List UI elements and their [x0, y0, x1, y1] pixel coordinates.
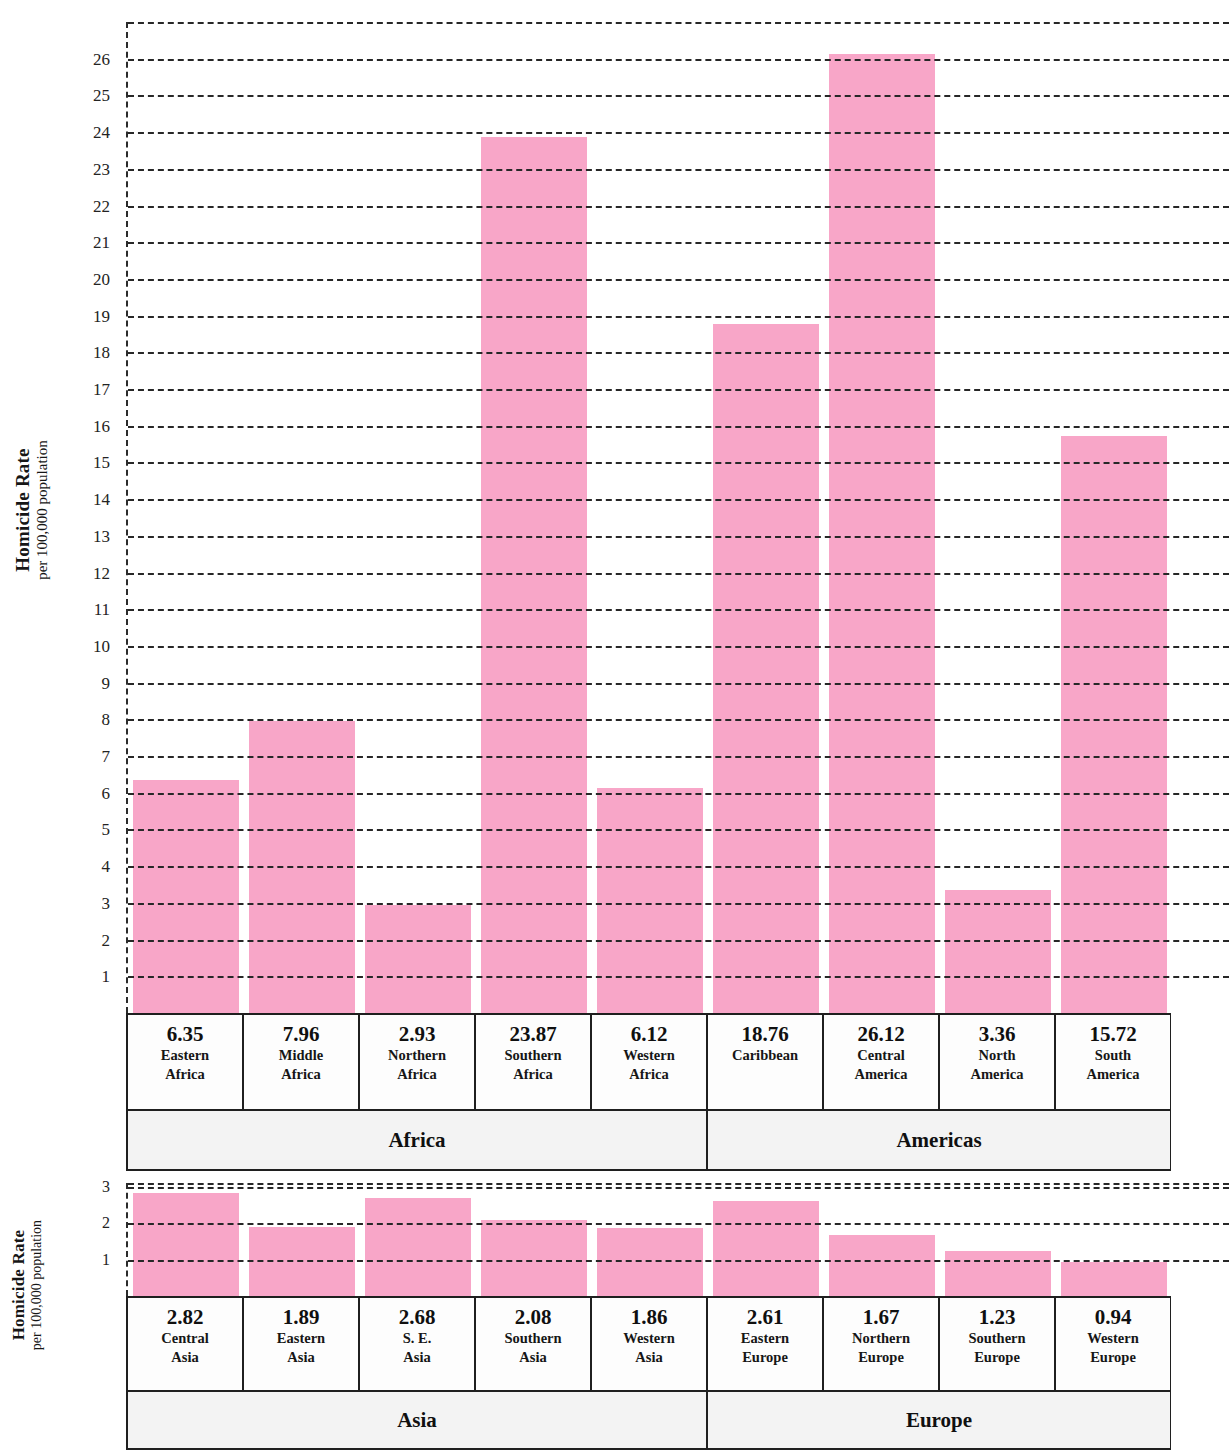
gridline — [128, 22, 1229, 24]
group-label-asia: Asia — [128, 1392, 708, 1450]
cell-value: 1.67 — [824, 1305, 938, 1329]
gridline — [128, 573, 1229, 575]
gridline — [128, 206, 1229, 208]
gridline — [128, 1187, 1229, 1189]
y-axis-tick-label: 19 — [93, 307, 110, 324]
cell-value: 2.08 — [476, 1305, 590, 1329]
bar — [597, 788, 703, 1013]
y-axis-tick-label: 1 — [102, 1252, 110, 1268]
y-axis-tick-label: 3 — [102, 894, 111, 911]
gridline — [128, 352, 1229, 354]
bar — [481, 137, 587, 1013]
gridline — [128, 866, 1229, 868]
cell-category-label: Central — [128, 1329, 242, 1348]
y-axis-tick-label: 15 — [93, 454, 110, 471]
table-cell-middle-africa: 7.96MiddleAfrica — [244, 1015, 360, 1111]
cell-category-label: North — [940, 1046, 1054, 1065]
cell-value: 6.35 — [128, 1022, 242, 1046]
plot-area-bottom — [126, 1183, 1169, 1296]
gridline — [128, 242, 1229, 244]
cell-category-label: Western — [1056, 1329, 1170, 1348]
plot-area-top — [126, 22, 1169, 1013]
bar — [713, 324, 819, 1013]
cell-value: 0.94 — [1056, 1305, 1170, 1329]
gridline — [128, 95, 1229, 97]
cell-category-label: Eastern — [128, 1046, 242, 1065]
bar — [945, 1251, 1051, 1296]
bar — [481, 1220, 587, 1296]
cell-value: 2.93 — [360, 1022, 474, 1046]
cell-value: 6.12 — [592, 1022, 706, 1046]
y-axis-tick-label: 25 — [93, 87, 110, 104]
table-cell-eastern-africa: 6.35EasternAfrica — [128, 1015, 244, 1111]
cell-category-label: Eastern — [708, 1329, 822, 1348]
gridline — [128, 536, 1229, 538]
cell-category-label: Africa — [592, 1065, 706, 1084]
table-cell-southern-africa: 23.87SouthernAfrica — [476, 1015, 592, 1111]
bar — [1061, 436, 1167, 1013]
cell-category-label: Western — [592, 1329, 706, 1348]
table-cell-western-asia: 1.86WesternAsia — [592, 1298, 708, 1392]
y-axis-tick-label: 2 — [102, 931, 111, 948]
data-label-row-top: 6.35EasternAfrica7.96MiddleAfrica2.93Nor… — [128, 1015, 1171, 1111]
data-label-row-bottom: 2.82CentralAsia1.89EasternAsia2.68S. E.A… — [128, 1298, 1171, 1392]
gridline — [128, 316, 1229, 318]
cell-category-label: Southern — [476, 1046, 590, 1065]
cell-category-label: Europe — [824, 1348, 938, 1367]
cell-category-label: Middle — [244, 1046, 358, 1065]
group-label-americas: Americas — [708, 1111, 1171, 1171]
cell-category-label: Asia — [592, 1348, 706, 1367]
y-axis-tick-label: 10 — [93, 637, 110, 654]
bar — [365, 1198, 471, 1296]
gridline — [128, 426, 1229, 428]
gridline — [128, 976, 1229, 978]
y-axis-tick-label: 20 — [93, 270, 110, 287]
table-cell-western-africa: 6.12WesternAfrica — [592, 1015, 708, 1111]
group-label-row-top: AfricaAmericas — [128, 1111, 1171, 1171]
table-cell-caribbean: 18.76Caribbean — [708, 1015, 824, 1111]
y-axis-title-sub-bottom: per 100,000 population — [29, 1210, 45, 1360]
cell-category-label: Europe — [940, 1348, 1054, 1367]
bar — [829, 54, 935, 1013]
cell-value: 2.82 — [128, 1305, 242, 1329]
gridline — [128, 1260, 1229, 1262]
cell-category-label: Africa — [360, 1065, 474, 1084]
cell-value: 1.89 — [244, 1305, 358, 1329]
group-label-row-bottom: AsiaEurope — [128, 1392, 1171, 1450]
y-axis-tick-label: 7 — [102, 748, 111, 765]
cell-category-label: S. E. — [360, 1329, 474, 1348]
cell-value: 7.96 — [244, 1022, 358, 1046]
gridline — [128, 279, 1229, 281]
y-axis-tick-label: 16 — [93, 417, 110, 434]
gridline — [128, 646, 1229, 648]
cell-value: 1.86 — [592, 1305, 706, 1329]
cell-category-label: Southern — [940, 1329, 1054, 1348]
chart-panel-africa-americas: Homicide Rate per 100,000 population 123… — [0, 0, 1169, 1170]
bar — [829, 1235, 935, 1296]
y-axis-tick-label: 8 — [102, 711, 111, 728]
cell-value: 2.61 — [708, 1305, 822, 1329]
gridline — [128, 389, 1229, 391]
y-axis-tick-label: 2 — [102, 1215, 110, 1231]
y-axis-title-top: Homicide Rate per 100,000 population — [12, 435, 72, 585]
y-axis-tick-label: 4 — [102, 858, 111, 875]
cell-category-label: Asia — [244, 1348, 358, 1367]
gridline — [128, 59, 1229, 61]
table-cell-northern-europe: 1.67NorthernEurope — [824, 1298, 940, 1392]
gridline — [128, 903, 1229, 905]
gridline — [128, 462, 1229, 464]
gridline — [128, 940, 1229, 942]
cell-value: 18.76 — [708, 1022, 822, 1046]
cell-category-label: America — [824, 1065, 938, 1084]
y-axis-tick-label: 23 — [93, 160, 110, 177]
gridline — [128, 1183, 1229, 1185]
gridline — [128, 719, 1229, 721]
y-axis-tick-label: 18 — [93, 344, 110, 361]
y-axis-tick-label: 6 — [102, 784, 111, 801]
y-axis-tick-label: 21 — [93, 234, 110, 251]
bar — [365, 905, 471, 1013]
cell-category-label: Western — [592, 1046, 706, 1065]
cell-value: 15.72 — [1056, 1022, 1170, 1046]
bar — [713, 1201, 819, 1296]
table-cell-eastern-europe: 2.61EasternEurope — [708, 1298, 824, 1392]
